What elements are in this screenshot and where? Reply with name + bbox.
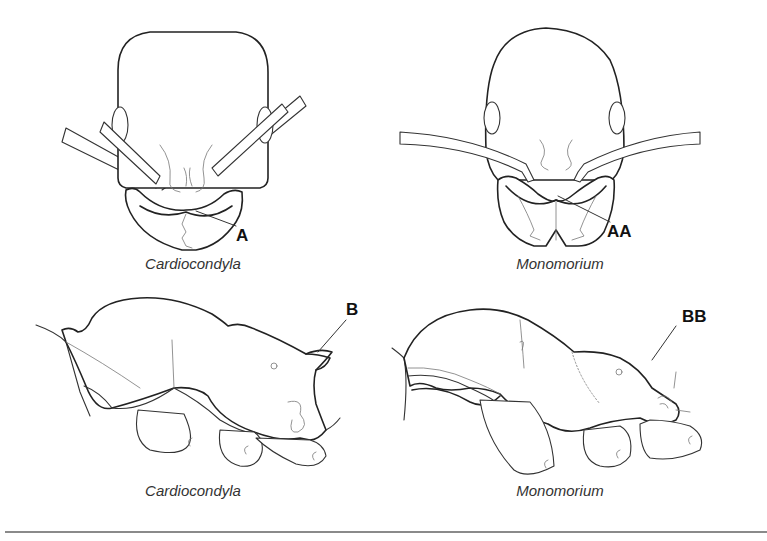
figure-bottom-rule (5, 531, 767, 533)
mesosoma-monomorium-drawing (0, 0, 767, 541)
caption-mesosoma-cardiocondyla: Cardiocondyla (145, 482, 241, 499)
label-a: A (236, 226, 248, 246)
ant-comparison-figure: A AA B BB Cardiocondyla Monomorium Cardi… (0, 0, 767, 541)
caption-head-cardiocondyla: Cardiocondyla (145, 255, 241, 272)
label-b: B (346, 300, 358, 320)
caption-head-monomorium: Monomorium (516, 255, 604, 272)
label-aa: AA (607, 222, 632, 242)
caption-mesosoma-monomorium: Monomorium (516, 482, 604, 499)
label-bb: BB (682, 307, 707, 327)
